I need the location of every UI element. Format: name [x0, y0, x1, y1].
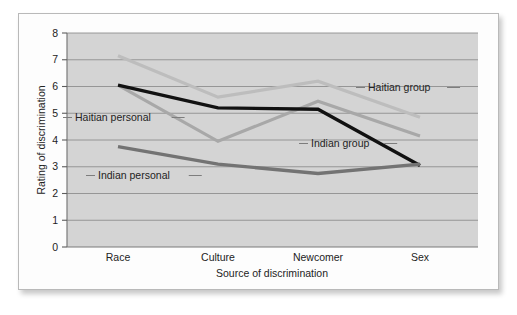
- chart-plot-wrapper: 012345678 Haitian personalIndian persona…: [0, 0, 517, 315]
- y-tick-label-6: 6: [52, 80, 58, 92]
- y-tick-label-5: 5: [52, 107, 58, 119]
- y-tick-label-4: 4: [52, 134, 58, 146]
- x-axis-category-labels-group: RaceCultureNewcomerSex: [106, 251, 430, 263]
- x-axis-label-sex: Sex: [411, 251, 430, 263]
- y-tick-label-2: 2: [52, 187, 58, 199]
- y-tick-label-1: 1: [52, 214, 58, 226]
- x-axis-label-race: Race: [106, 251, 131, 263]
- y-axis-tick-labels-group: 012345678: [52, 27, 58, 253]
- x-axis-label-newcomer: Newcomer: [293, 251, 344, 263]
- series-annotation-haitian-group: Haitian group: [368, 81, 431, 93]
- y-tick-label-7: 7: [52, 53, 58, 65]
- figure-canvas: 012345678 Haitian personalIndian persona…: [0, 0, 517, 315]
- y-axis-ticks-group: [62, 33, 67, 247]
- y-axis-title: Rating of discrimination: [35, 85, 47, 194]
- y-tick-label-0: 0: [52, 241, 58, 253]
- x-axis-title: Source of discrimination: [216, 267, 328, 279]
- series-annotation-indian-personal: Indian personal: [98, 169, 170, 181]
- series-annotation-haitian-personal: Haitian personal: [75, 111, 151, 123]
- line-chart-svg: 012345678 Haitian personalIndian persona…: [0, 0, 517, 315]
- series-annotation-indian-group: Indian group: [311, 137, 370, 149]
- x-axis-label-culture: Culture: [201, 251, 235, 263]
- y-tick-label-3: 3: [52, 160, 58, 172]
- y-tick-label-8: 8: [52, 27, 58, 39]
